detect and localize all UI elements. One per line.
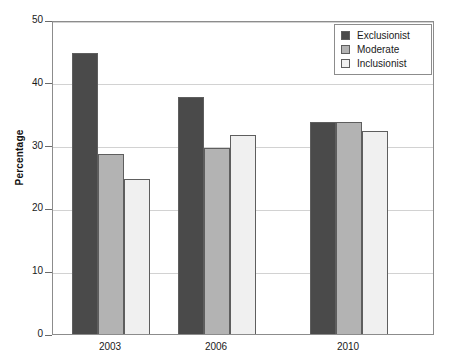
y-axis-label-text: 50: [32, 14, 43, 25]
y-tick-20: [45, 209, 52, 210]
y-tick-30: [45, 146, 52, 147]
legend-item-exclusionist: Exclusionist: [341, 29, 426, 42]
bar-2010-exclusionist: [310, 122, 336, 335]
y-tick-50: [45, 21, 52, 22]
y-tick-10: [45, 272, 52, 273]
y-axis-label-text: 40: [32, 77, 43, 88]
legend-swatch-inclusionist: [341, 59, 350, 68]
bar-2006-moderate: [204, 148, 230, 335]
bar-2010-inclusionist: [362, 131, 388, 335]
gridline-50: [53, 22, 433, 23]
legend-item-inclusionist: Inclusionist: [341, 57, 426, 70]
x-axis-label-2003: 2003: [80, 341, 140, 352]
bar-2003-inclusionist: [124, 179, 150, 335]
bar-2006-inclusionist: [230, 135, 256, 335]
legend-label: Inclusionist: [357, 58, 406, 69]
y-axis-label-text: 20: [32, 202, 43, 213]
y-tick-0: [45, 335, 52, 336]
bar-2010-moderate: [336, 122, 362, 335]
y-tick-40: [45, 83, 52, 84]
bar-2003-moderate: [98, 154, 124, 335]
legend-label: Exclusionist: [357, 30, 410, 41]
legend-item-moderate: Moderate: [341, 43, 426, 56]
bar-chart: Percentage 01020304050 200320062010 Excl…: [0, 0, 449, 364]
legend-swatch-moderate: [341, 45, 350, 54]
y-axis-title: Percentage: [14, 113, 25, 203]
legend-label: Moderate: [357, 44, 399, 55]
x-axis-label-2006: 2006: [186, 341, 246, 352]
y-axis-label-text: 0: [37, 328, 43, 339]
bar-2006-exclusionist: [178, 97, 204, 335]
legend: ExclusionistModerateInclusionist: [334, 24, 432, 75]
legend-swatch-exclusionist: [341, 31, 350, 40]
x-axis-label-2010: 2010: [318, 341, 378, 352]
gridline-40: [53, 84, 433, 85]
y-axis-label-text: 30: [32, 140, 43, 151]
bar-2003-exclusionist: [72, 53, 98, 335]
y-axis-label-text: 10: [32, 265, 43, 276]
